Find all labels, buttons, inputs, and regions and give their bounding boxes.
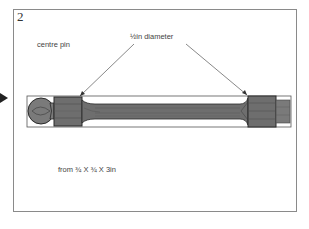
centre-pin-drawing	[0, 0, 309, 229]
ball-end	[28, 98, 54, 124]
